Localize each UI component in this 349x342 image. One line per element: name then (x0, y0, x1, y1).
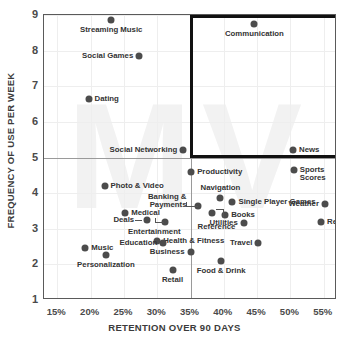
data-point (160, 240, 167, 247)
data-point-label: Weather (288, 200, 319, 208)
y-axis-title-text: FREQUENCY OF USE PER WEEK (6, 72, 17, 228)
data-point (136, 52, 143, 59)
data-point (144, 216, 151, 223)
data-point-label: Deals (113, 216, 134, 224)
quadrant-divider-horizontal (44, 158, 335, 160)
data-point-label: SportsScores (300, 166, 326, 182)
data-point-label: Social Networking (110, 146, 178, 154)
y-axis-tick-label: 3 (18, 222, 38, 234)
x-axis-tick-label: 15% (47, 306, 66, 317)
x-axis-tick-label: 55% (313, 306, 332, 317)
data-point (290, 147, 297, 154)
data-point-label: Entertainment (128, 228, 180, 236)
data-point (169, 266, 176, 273)
label-leader-line (186, 202, 198, 207)
y-axis-tick-label: 9 (18, 8, 38, 20)
plot-area: MV Streaming MusicCommunicationSocial Ga… (43, 14, 336, 299)
x-axis-tick-label: 40% (213, 306, 232, 317)
x-axis-title: RETENTION OVER 90 DAYS (0, 322, 349, 333)
y-axis-tick-label: 2 (18, 257, 38, 269)
data-point-label: Photo & Video (111, 182, 164, 190)
data-point-label: Retail (162, 276, 183, 284)
data-point (217, 195, 224, 202)
data-point (209, 209, 216, 216)
data-point-label: Banking &Payments (148, 192, 187, 208)
data-point-label: Communication (225, 30, 284, 38)
data-point (255, 240, 262, 247)
data-point-label: Health & Fitness (163, 237, 224, 245)
data-point (82, 245, 89, 252)
data-point-label: Business (150, 248, 185, 256)
data-point-label: Navigation (201, 184, 241, 192)
y-axis-tick-label: 7 (18, 79, 38, 91)
data-point-label: Streaming Music (80, 26, 142, 34)
data-point (251, 20, 258, 27)
gridline-horizontal (44, 229, 335, 230)
data-point (180, 147, 187, 154)
data-point (218, 257, 225, 264)
data-point-label: Productivity (197, 168, 242, 176)
data-point (108, 17, 115, 24)
label-leader-line (155, 218, 164, 223)
data-point (101, 183, 108, 190)
gridline-horizontal (44, 193, 335, 194)
data-point-label: Utilities (210, 219, 238, 227)
data-point-label: Social Games (82, 52, 133, 60)
y-axis-tick-label: 6 (18, 115, 38, 127)
scatter-chart: FREQUENCY OF USE PER WEEK MV Streaming M… (0, 0, 349, 342)
data-point-label: Personalization (77, 261, 135, 269)
data-point (187, 248, 194, 255)
data-point-label: Food & Drink (197, 267, 246, 275)
y-axis-tick-label: 4 (18, 186, 38, 198)
label-leader-line (216, 209, 224, 218)
x-axis-tick-label: 50% (280, 306, 299, 317)
x-axis-tick-label: 20% (80, 306, 99, 317)
data-point (290, 166, 297, 173)
data-point-label: Dating (95, 95, 119, 103)
data-point (318, 218, 325, 225)
x-axis-tick-label: 30% (147, 306, 166, 317)
y-axis-tick-label: 8 (18, 44, 38, 56)
x-axis-tick-label: 35% (180, 306, 199, 317)
data-point (102, 252, 109, 259)
y-axis-tick-label: 5 (18, 151, 38, 163)
x-axis-tick-label: 25% (113, 306, 132, 317)
data-point (240, 220, 247, 227)
data-point (85, 95, 92, 102)
data-point-label: Music (91, 244, 113, 252)
data-point-label: Reference (327, 218, 336, 226)
y-axis-tick-label: 1 (18, 293, 38, 305)
data-point-label: Travel (230, 239, 253, 247)
label-leader-line (135, 220, 142, 221)
data-point-label: News (299, 146, 319, 154)
x-axis-tick-label: 45% (247, 306, 266, 317)
gridline-vertical (57, 15, 58, 298)
data-point (229, 199, 236, 206)
data-point (322, 200, 329, 207)
data-point (188, 168, 195, 175)
